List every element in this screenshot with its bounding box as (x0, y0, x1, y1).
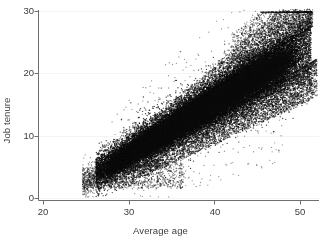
xtick-label-40: 40 (203, 206, 227, 217)
scatter-plot-canvas (0, 0, 321, 241)
y-axis-title: Job tenure (0, 0, 14, 241)
xtick-label-50: 50 (288, 206, 312, 217)
scatter-plot-figure: 30 20 10 0 20 30 40 50 Average age Job t… (0, 0, 321, 241)
xtick-label-20: 20 (31, 206, 55, 217)
x-axis-title: Average age (0, 225, 321, 236)
xtick-label-30: 30 (117, 206, 141, 217)
